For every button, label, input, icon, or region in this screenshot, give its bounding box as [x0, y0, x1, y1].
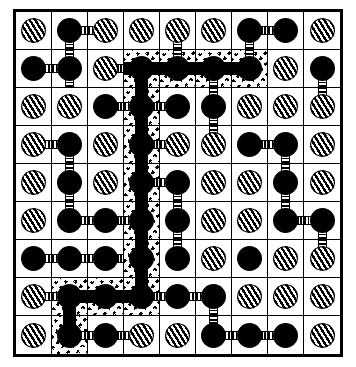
- hatched-node-icon: [165, 18, 190, 43]
- solid-node-icon: [129, 170, 154, 195]
- lattice-cell: [268, 278, 304, 316]
- solid-node-icon: [165, 284, 190, 309]
- lattice-cell: [52, 240, 88, 278]
- lattice-cell: [52, 316, 88, 354]
- lattice-cell: [196, 240, 232, 278]
- solid-node-icon: [237, 56, 262, 81]
- lattice-cell: [160, 12, 196, 50]
- solid-node-icon: [93, 208, 118, 233]
- hatched-node-icon: [165, 132, 190, 157]
- figure-title: Percolation lattice with highlighted con…: [0, 0, 1, 1]
- lattice-cell: [52, 126, 88, 164]
- hatched-node-icon: [93, 56, 118, 81]
- solid-node-icon: [165, 170, 190, 195]
- hatched-node-icon: [237, 284, 262, 309]
- lattice-cell: [196, 164, 232, 202]
- lattice-cell: [16, 88, 52, 126]
- lattice-cell: [232, 278, 268, 316]
- hatched-node-icon: [21, 323, 46, 348]
- solid-node-icon: [93, 284, 118, 309]
- lattice-cell: [196, 12, 232, 50]
- solid-node-icon: [93, 323, 118, 348]
- lattice-cell: [88, 50, 124, 88]
- lattice-cell: [304, 316, 340, 354]
- lattice-cell: [124, 88, 160, 126]
- lattice-cell: [124, 126, 160, 164]
- solid-node-icon: [273, 132, 298, 157]
- hatched-node-icon: [93, 132, 118, 157]
- lattice-cell: [88, 316, 124, 354]
- hatched-node-icon: [201, 170, 226, 195]
- lattice-cell: [88, 202, 124, 240]
- hatched-node-icon: [129, 18, 154, 43]
- hatched-node-icon: [201, 132, 226, 157]
- solid-node-icon: [165, 94, 190, 119]
- hatched-node-icon: [310, 284, 335, 309]
- solid-node-icon: [273, 208, 298, 233]
- maze-lattice-figure: Percolation lattice with highlighted con…: [0, 0, 356, 367]
- solid-node-icon: [57, 18, 82, 43]
- lattice-cell: [52, 12, 88, 50]
- lattice-cell: [232, 88, 268, 126]
- lattice-cell: [124, 202, 160, 240]
- solid-node-icon: [165, 208, 190, 233]
- hatched-node-icon: [310, 94, 335, 119]
- solid-node-icon: [129, 208, 154, 233]
- lattice-cell: [232, 202, 268, 240]
- lattice-cell: [304, 278, 340, 316]
- solid-node-icon: [165, 246, 190, 271]
- hatched-node-icon: [310, 170, 335, 195]
- solid-node-icon: [273, 18, 298, 43]
- lattice-cell: [16, 126, 52, 164]
- hatched-node-icon: [93, 170, 118, 195]
- hatched-node-icon: [201, 208, 226, 233]
- lattice-cell: [16, 202, 52, 240]
- solid-node-icon: [57, 208, 82, 233]
- solid-node-icon: [21, 246, 46, 271]
- solid-node-icon: [21, 56, 46, 81]
- lattice-cell: [304, 12, 340, 50]
- solid-node-icon: [237, 246, 262, 271]
- hatched-node-icon: [201, 18, 226, 43]
- lattice-cell: [304, 240, 340, 278]
- solid-node-icon: [237, 323, 262, 348]
- hatched-node-icon: [273, 284, 298, 309]
- solid-node-icon: [201, 56, 226, 81]
- lattice-cell: [160, 278, 196, 316]
- lattice-cell: [232, 12, 268, 50]
- lattice-cell: [196, 88, 232, 126]
- lattice-cell: [268, 12, 304, 50]
- solid-node-icon: [310, 208, 335, 233]
- lattice-cell: [160, 316, 196, 354]
- lattice-cell: [52, 50, 88, 88]
- hatched-node-icon: [21, 94, 46, 119]
- lattice-cell: [304, 164, 340, 202]
- hatched-node-icon: [21, 18, 46, 43]
- hatched-node-icon: [310, 246, 335, 271]
- lattice-cell: [232, 50, 268, 88]
- hatched-node-icon: [237, 94, 262, 119]
- lattice-cell: [160, 88, 196, 126]
- lattice-cell: [196, 202, 232, 240]
- lattice-cell: [88, 164, 124, 202]
- lattice-cell: [196, 278, 232, 316]
- solid-node-icon: [165, 56, 190, 81]
- solid-node-icon: [57, 323, 82, 348]
- hatched-node-icon: [273, 246, 298, 271]
- lattice-cell: [52, 164, 88, 202]
- lattice-cell: [124, 240, 160, 278]
- solid-node-icon: [201, 284, 226, 309]
- lattice-cell: [196, 316, 232, 354]
- hatched-node-icon: [273, 94, 298, 119]
- lattice-cell: [124, 164, 160, 202]
- lattice-cell: [160, 50, 196, 88]
- hatched-node-icon: [237, 170, 262, 195]
- lattice-cell: [88, 88, 124, 126]
- lattice-cell: [268, 164, 304, 202]
- lattice-cell: [124, 50, 160, 88]
- lattice-cell: [304, 50, 340, 88]
- lattice-cell: [232, 126, 268, 164]
- solid-node-icon: [201, 94, 226, 119]
- hatched-node-icon: [57, 94, 82, 119]
- hatched-node-icon: [201, 246, 226, 271]
